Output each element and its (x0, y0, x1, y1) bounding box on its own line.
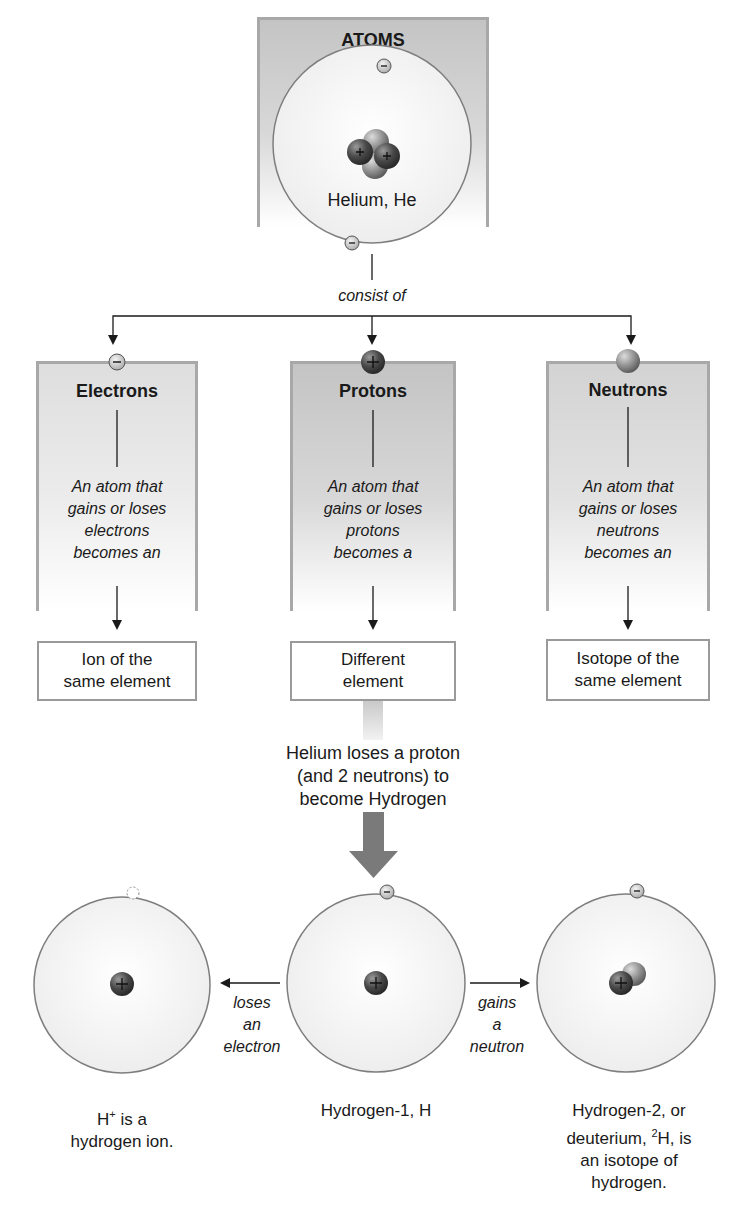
isotope-result-box: Isotope of thesame element (546, 639, 710, 701)
protons-description: An atom that gains or loses protons beco… (290, 476, 456, 564)
different-element-result-box: Differentelement (290, 641, 456, 701)
neutrons-title: Neutrons (546, 380, 710, 401)
big-down-arrow-icon (349, 812, 398, 878)
electrons-title: Electrons (36, 381, 198, 402)
loses-arrow-icon (220, 978, 230, 988)
loses-electron-label: loses an electron (220, 992, 284, 1058)
hydrogen-ion-caption: H+ is a hydrogen ion. (40, 1103, 204, 1153)
ion-result-box: Ion of thesame element (37, 641, 197, 701)
transition-text: Helium loses a proton (and 2 neutrons) t… (232, 742, 514, 811)
neutron-icon (616, 349, 640, 373)
electrons-description: An atom that gains or loses electrons be… (36, 476, 198, 564)
deuterium-caption: Hydrogen-2, or deuterium, 2H, is an isot… (534, 1100, 724, 1194)
helium-label: Helium, He (272, 189, 472, 211)
consist-of-label: consist of (312, 285, 432, 307)
hydrogen-ion-atom (34, 887, 210, 1073)
deuterium-atom (537, 884, 715, 1072)
gains-neutron-label: gains a neutron (462, 992, 532, 1058)
neutrons-description: An atom that gains or loses neutrons bec… (546, 476, 710, 564)
diagram-lines (0, 0, 743, 1219)
helium-atom (273, 45, 471, 250)
gains-arrow-icon (520, 978, 530, 988)
hydrogen-1-atom (287, 885, 465, 1072)
hydrogen-1-caption: Hydrogen-1, H (286, 1100, 466, 1122)
protons-title: Protons (290, 381, 456, 402)
